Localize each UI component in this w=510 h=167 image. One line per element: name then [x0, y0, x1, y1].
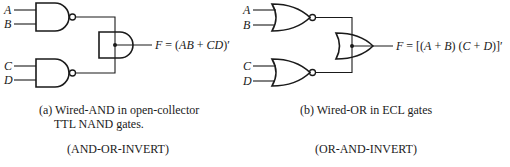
- input-label-c: C: [4, 59, 13, 73]
- input-label-d: D: [3, 73, 13, 87]
- input-label-b: B: [243, 18, 251, 32]
- nand-gate-top-icon: [36, 3, 69, 31]
- inversion-bubble-bottom: [70, 70, 76, 76]
- nor-gate-bottom-icon: [272, 59, 310, 86]
- function-name-b: (OR-AND-INVERT): [315, 142, 417, 156]
- caption-a-line2: TTL NAND gates.: [54, 117, 144, 131]
- wire-bottom-out: [76, 59, 116, 73]
- inversion-bubble-top: [70, 14, 76, 20]
- input-label-a: A: [242, 3, 251, 17]
- input-label-a: A: [3, 3, 12, 17]
- caption-a-line1: (a) Wired-AND in open-collector: [39, 103, 199, 117]
- nor-gate-top-icon: [272, 4, 310, 31]
- right-circuit: A B C D F = [(A + B) (C + D)]′: [242, 3, 503, 88]
- wire-bottom-out: [316, 59, 353, 73]
- function-name-a: (AND-OR-INVERT): [67, 142, 169, 156]
- nand-gate-bottom-icon: [36, 59, 69, 87]
- caption-b-line1: (b) Wired-OR in ECL gates: [300, 103, 432, 117]
- input-label-c: C: [243, 59, 252, 73]
- input-label-b: B: [4, 17, 12, 31]
- output-expression: F = (AB + CD)′: [154, 38, 230, 52]
- left-circuit: A B C D F = (AB + CD)′: [3, 3, 230, 87]
- output-expression: F = [(A + B) (C + D)]′: [395, 39, 503, 53]
- wire-top-out: [76, 17, 116, 31]
- input-label-d: D: [242, 74, 252, 88]
- wire-top-out: [316, 18, 353, 34]
